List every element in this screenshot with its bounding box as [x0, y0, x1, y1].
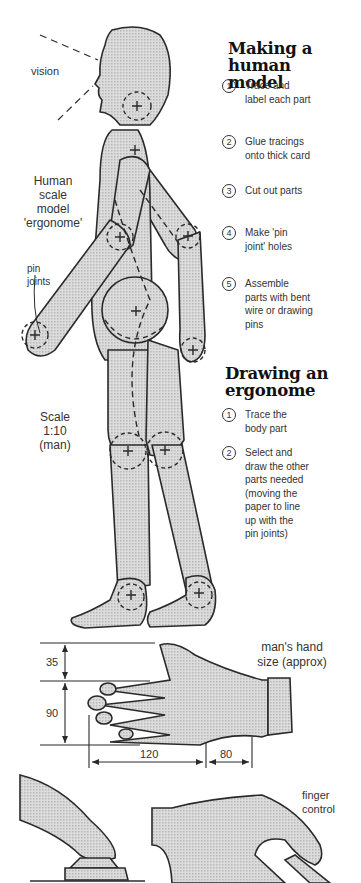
- head: [95, 27, 170, 125]
- step-number: 2: [222, 135, 236, 149]
- back-foot: [148, 576, 216, 627]
- scale-label: Scale 1:10 (man): [30, 410, 80, 452]
- step-number: 2: [222, 446, 236, 460]
- step-text: Assemble parts with bent wire or drawing…: [245, 277, 313, 331]
- making-step-5: 5Assemble parts with bent wire or drawin…: [222, 277, 313, 331]
- step-text: Make 'pin joint' holes: [245, 226, 292, 253]
- making-step-2: 2Glue tracings onto thick card: [222, 135, 310, 162]
- step-number: 1: [222, 408, 236, 422]
- step-number: 1: [222, 79, 236, 93]
- making-step-3: 3Cut out parts: [222, 184, 302, 198]
- back-shin: [152, 445, 212, 590]
- pressing-hand: [20, 775, 128, 880]
- front-thigh: [108, 350, 150, 460]
- step-number: 5: [222, 277, 236, 291]
- drawing-step-1: 1Trace the body part: [222, 408, 287, 435]
- step-text: Trace the body part: [245, 408, 287, 435]
- making-step-1: 1Trace and label each part: [222, 79, 311, 106]
- step-number: 3: [222, 184, 236, 198]
- drawing-title: Drawing an ergonome: [225, 365, 328, 399]
- step-text: Trace and label each part: [245, 79, 311, 106]
- step-text: Glue tracings onto thick card: [245, 135, 310, 162]
- dim-fingers-height: 90: [46, 707, 58, 719]
- finger-control-label: finger control: [302, 788, 335, 816]
- ergonome-label: Human scale model 'ergonome': [18, 174, 88, 230]
- dim-fingers-length: 120: [140, 748, 158, 760]
- vision-label: vision: [20, 65, 70, 78]
- vision-line-lower: [58, 86, 93, 120]
- front-shin: [110, 445, 150, 590]
- vision-line-upper: [40, 35, 98, 60]
- drawing-step-2: 2Select and draw the other parts needed …: [222, 446, 309, 541]
- dim-palm-length: 80: [220, 748, 232, 760]
- pin-joints-label: pin joints: [27, 262, 50, 288]
- dim-thumb-height: 35: [46, 656, 58, 668]
- back-forearm: [178, 232, 205, 362]
- step-text: Cut out parts: [245, 184, 302, 198]
- making-step-4: 4Make 'pin joint' holes: [222, 226, 292, 253]
- front-foot: [71, 578, 146, 628]
- step-text: Select and draw the other parts needed (…: [245, 446, 309, 541]
- hand-size-caption: man's hand size (approx): [232, 640, 352, 670]
- pelvis-disc: [102, 277, 168, 343]
- step-number: 4: [222, 226, 236, 240]
